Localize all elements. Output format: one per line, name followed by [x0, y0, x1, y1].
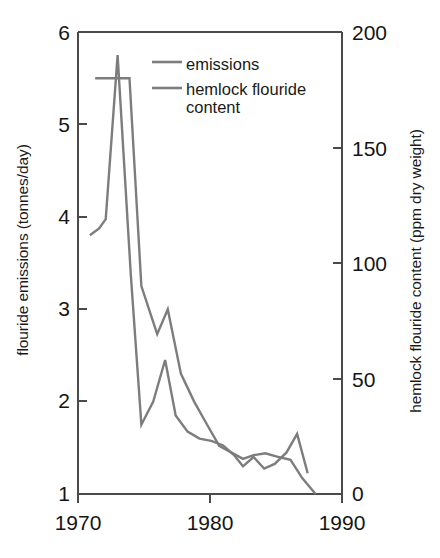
- chart-figure: flouride emissions (tonnes/day) hemlock …: [0, 0, 440, 558]
- axis-frame: [78, 32, 342, 494]
- series-line-emissions: [95, 78, 315, 494]
- plot-canvas: [0, 0, 440, 558]
- y-axis-right-ticks: [333, 148, 342, 379]
- y-axis-left-ticks: [78, 124, 87, 401]
- x-axis-ticks: [78, 494, 342, 503]
- legend: [152, 62, 182, 88]
